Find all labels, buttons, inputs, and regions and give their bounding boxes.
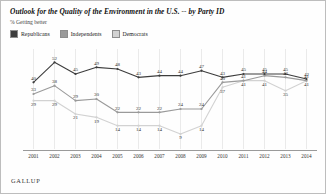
x-axis-label: 2008	[175, 153, 185, 159]
data-label: 48	[115, 62, 121, 67]
data-label: 22	[157, 106, 163, 111]
data-label: 49	[94, 61, 100, 66]
data-point	[74, 73, 76, 75]
x-axis-label: 2014	[301, 153, 311, 159]
data-label: 45	[241, 67, 247, 72]
x-axis-label: 2001	[28, 153, 38, 159]
data-label: 14	[157, 127, 163, 132]
data-label: 29	[73, 94, 79, 99]
data-label: 35	[283, 92, 289, 97]
data-label: 24	[178, 102, 184, 107]
x-axis-label: 2011	[238, 153, 248, 159]
x-axis-label: 2007	[154, 153, 164, 159]
data-label: 44	[178, 69, 184, 74]
x-axis-label: 2010	[217, 153, 227, 159]
data-point	[179, 75, 181, 77]
data-point	[221, 81, 223, 83]
legend-label-independents: Independents	[71, 31, 102, 37]
legend-swatch-independents	[60, 30, 68, 38]
data-point	[158, 111, 160, 113]
series-line-democrats	[34, 81, 307, 134]
data-point	[284, 76, 286, 78]
source-label: GALLUP	[11, 177, 40, 184]
data-label: 41	[262, 82, 268, 87]
data-point	[95, 66, 97, 68]
data-label: 22	[115, 106, 121, 111]
data-point	[200, 108, 202, 110]
data-label: 45	[262, 67, 268, 72]
data-label: 14	[115, 127, 121, 132]
legend-item-democrats: Democrats	[112, 30, 148, 38]
data-point	[53, 85, 55, 87]
data-label: 43	[220, 71, 226, 76]
data-label: 14	[199, 127, 205, 132]
data-point	[305, 78, 307, 80]
data-label: 24	[199, 102, 205, 107]
x-axis-label: 2006	[133, 153, 143, 159]
data-point	[263, 73, 265, 75]
legend-item-independents: Independents	[60, 30, 102, 38]
data-point	[116, 68, 118, 70]
chart-card: Outlook for the Quality of the Environme…	[0, 0, 326, 194]
legend-label-republicans: Republicans	[21, 31, 50, 37]
data-label: 30	[94, 92, 100, 97]
x-axis-label: 2005	[112, 153, 122, 159]
data-label: 9	[179, 135, 182, 140]
data-point	[53, 61, 55, 63]
data-label: 45	[283, 67, 289, 72]
data-label: 43	[136, 71, 142, 76]
chart-plot-area: 2929211914141491437414135413338293022222…	[23, 49, 317, 149]
data-point	[74, 100, 76, 102]
line-chart-svg: 2929211914141491437414135413338293022222…	[23, 49, 317, 149]
chart-subtitle: % Getting better	[10, 19, 47, 25]
legend-swatch-democrats	[112, 30, 120, 38]
x-axis-label: 2003	[70, 153, 80, 159]
data-point	[116, 111, 118, 113]
data-label: 37	[220, 89, 226, 94]
x-axis-label: 2004	[91, 153, 101, 159]
data-label: 22	[136, 106, 142, 111]
data-point	[32, 81, 34, 83]
data-label: 38	[52, 79, 58, 84]
chart-legend: Republicans Independents Democrats	[10, 30, 148, 38]
data-label: 14	[136, 127, 142, 132]
data-label: 47	[199, 64, 205, 69]
data-point	[137, 76, 139, 78]
legend-swatch-republicans	[10, 30, 18, 38]
data-label: 19	[94, 119, 100, 124]
data-label: 21	[73, 115, 79, 120]
data-point	[200, 70, 202, 72]
data-label: 42	[304, 72, 310, 77]
page-title: Outlook for the Quality of the Environme…	[10, 7, 224, 16]
legend-item-republicans: Republicans	[10, 30, 50, 38]
data-point	[242, 73, 244, 75]
legend-label-democrats: Democrats	[123, 31, 148, 37]
data-point	[137, 111, 139, 113]
x-axis-label: 2002	[49, 153, 59, 159]
data-label: 44	[157, 69, 163, 74]
x-axis-line	[23, 150, 317, 151]
data-label: 52	[52, 56, 58, 61]
data-label: 29	[52, 102, 58, 107]
data-label: 41	[241, 82, 247, 87]
data-label: 29	[31, 102, 37, 107]
data-point	[284, 73, 286, 75]
data-point	[221, 76, 223, 78]
data-label: 45	[73, 67, 79, 72]
x-axis-label: 2013	[280, 153, 290, 159]
data-label: 40	[31, 76, 37, 81]
x-axis-label: 2009	[196, 153, 206, 159]
data-label: 33	[31, 87, 37, 92]
data-point	[158, 75, 160, 77]
data-point	[95, 98, 97, 100]
x-axis-label: 2012	[259, 153, 269, 159]
x-axis-tick-labels: 2001200220032004200520062007200820092010…	[23, 153, 317, 165]
data-point	[179, 108, 181, 110]
data-point	[32, 93, 34, 95]
data-label: 41	[304, 82, 310, 87]
data-point	[242, 80, 244, 82]
